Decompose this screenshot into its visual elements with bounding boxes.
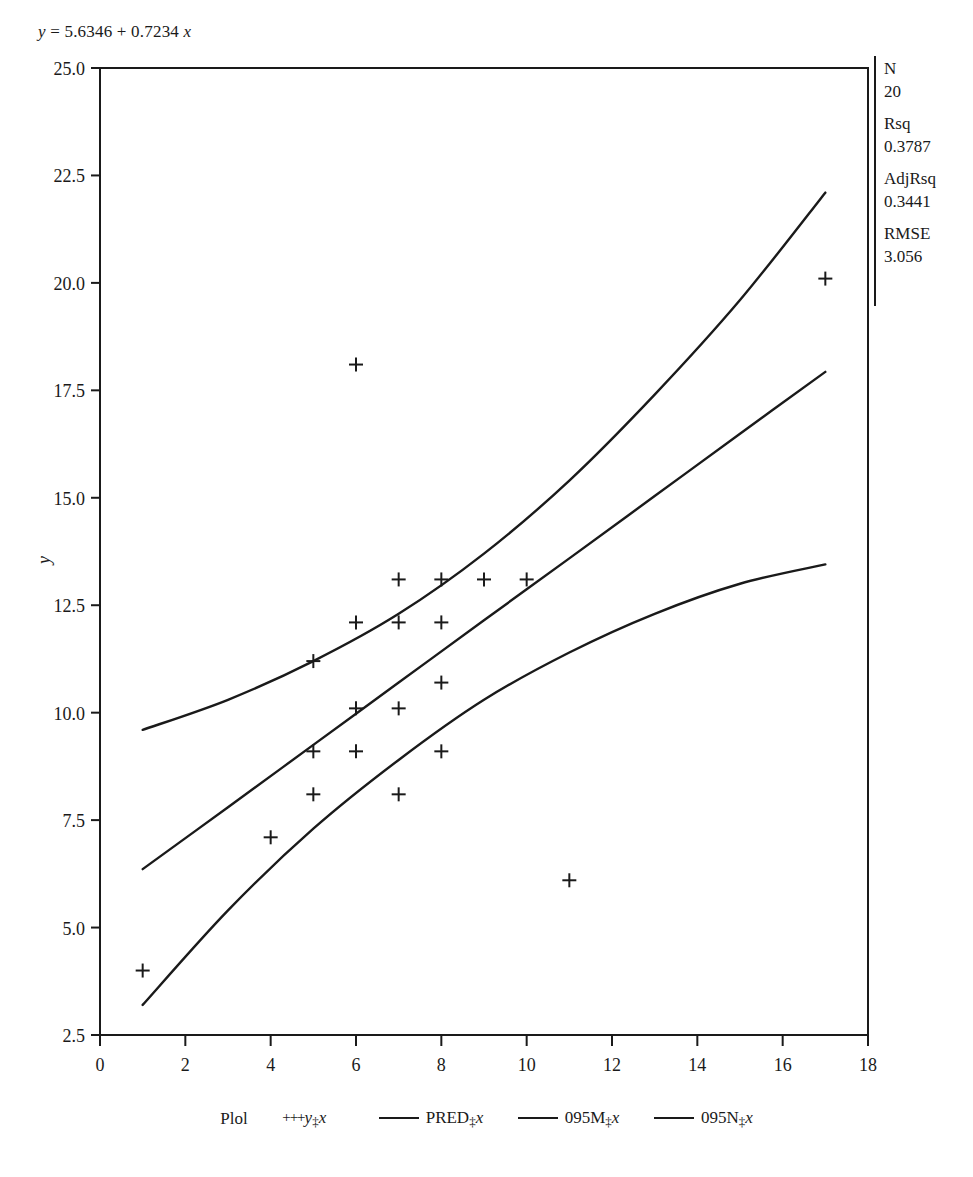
x-tick-label: 0 [96, 1055, 105, 1075]
data-point-marker [434, 572, 448, 586]
y-tick-label: 2.5 [63, 1026, 86, 1046]
data-point-marker [818, 272, 832, 286]
plot-frame [100, 68, 868, 1035]
y-tick-label: 17.5 [54, 381, 86, 401]
legend-label-095n: 095N [701, 1108, 739, 1127]
data-point-marker [434, 615, 448, 629]
legend: Plol +++y‡x PRED‡x 095M‡x 095N‡x [0, 1108, 973, 1130]
x-axis-ticks: 024681012141618 [96, 1035, 878, 1075]
x-tick-label: 16 [774, 1055, 792, 1075]
data-point-marker [306, 744, 320, 758]
data-point-marker [392, 701, 406, 715]
legend-line-marker-pred [379, 1117, 419, 1119]
y-tick-label: 15.0 [54, 489, 86, 509]
curve-095M-x [143, 193, 826, 730]
legend-item-scatter[interactable]: +++y‡x [282, 1108, 326, 1130]
legend-title: Plol [220, 1109, 247, 1129]
y-tick-label: 25.0 [54, 59, 86, 79]
data-point-marker [306, 654, 320, 668]
data-point-marker [392, 787, 406, 801]
legend-item-pred[interactable]: PRED‡x [379, 1108, 484, 1130]
x-tick-label: 8 [437, 1055, 446, 1075]
y-axis-title-text: y [34, 556, 54, 566]
curve-PRED-x [143, 372, 826, 869]
legend-line-marker-095m [518, 1117, 558, 1119]
legend-item-095m[interactable]: 095M‡x [518, 1108, 620, 1130]
legend-plus-marker: +++ [282, 1109, 304, 1125]
data-point-marker [306, 787, 320, 801]
y-tick-label: 22.5 [54, 166, 86, 186]
y-tick-label: 7.5 [63, 811, 86, 831]
data-point-marker [349, 358, 363, 372]
legend-xvar-0: x [319, 1108, 327, 1127]
x-tick-label: 4 [266, 1055, 275, 1075]
data-point-marker [434, 744, 448, 758]
regression-plot: 2.55.07.510.012.515.017.520.022.525.0 02… [0, 0, 973, 1177]
x-tick-label: 12 [603, 1055, 621, 1075]
legend-item-095n[interactable]: 095N‡x [654, 1108, 753, 1130]
y-tick-label: 12.5 [54, 596, 86, 616]
legend-label-095m: 095M [565, 1108, 606, 1127]
legend-label-pred: PRED [426, 1108, 469, 1127]
data-point-marker [349, 701, 363, 715]
y-tick-label: 20.0 [54, 274, 86, 294]
data-point-marker [434, 676, 448, 690]
x-tick-label: 18 [859, 1055, 877, 1075]
data-point-marker [392, 572, 406, 586]
data-point-marker [349, 744, 363, 758]
legend-xvar-2: x [612, 1108, 620, 1127]
legend-xvar-3: x [745, 1108, 753, 1127]
y-tick-label: 10.0 [54, 704, 86, 724]
data-points [136, 272, 833, 978]
data-point-marker [477, 572, 491, 586]
y-tick-label: 5.0 [63, 919, 86, 939]
x-tick-label: 6 [352, 1055, 361, 1075]
x-tick-label: 10 [518, 1055, 536, 1075]
data-point-marker [562, 873, 576, 887]
chart-canvas: 2.55.07.510.012.515.017.520.022.525.0 02… [0, 0, 973, 1177]
curve-095N-x [143, 564, 826, 1005]
data-point-marker [136, 964, 150, 978]
fit-curves [143, 193, 826, 1005]
x-tick-label: 14 [688, 1055, 706, 1075]
y-axis-ticks: 2.55.07.510.012.515.017.520.022.525.0 [54, 59, 101, 1046]
data-point-marker [264, 830, 278, 844]
legend-label-y: y [305, 1108, 313, 1127]
legend-line-marker-095n [654, 1117, 694, 1119]
y-axis-title: y [34, 556, 54, 566]
data-point-marker [349, 615, 363, 629]
x-tick-label: 2 [181, 1055, 190, 1075]
legend-xvar-1: x [476, 1108, 484, 1127]
